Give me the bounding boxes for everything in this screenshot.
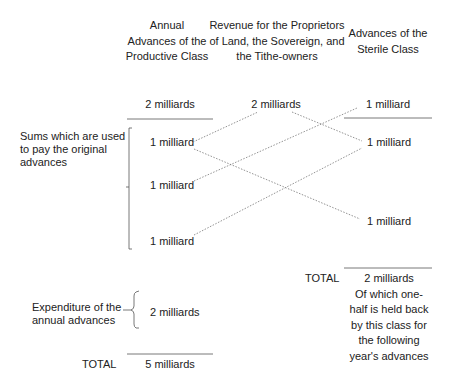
expenditure-bracket bbox=[123, 291, 139, 328]
flow-productive2-sterile-top bbox=[194, 108, 357, 181]
sums-bracket bbox=[126, 128, 132, 249]
flow-revenue-sterile1 bbox=[292, 112, 362, 141]
flow-productive1-sterile2 bbox=[194, 149, 360, 219]
flow-productive3-sterile1 bbox=[194, 148, 362, 235]
flow-productive1-revenue bbox=[193, 112, 258, 142]
connector-lines bbox=[0, 0, 453, 385]
